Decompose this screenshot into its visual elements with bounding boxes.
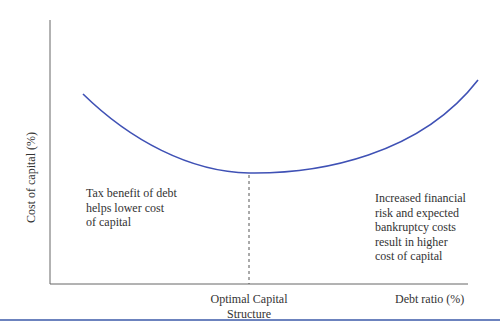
right-annotation: Increased financial risk and expected ba…: [375, 191, 466, 264]
cost-of-capital-curve: [83, 80, 478, 173]
left-note-line: of capital: [86, 215, 177, 230]
right-note-line: result in higher: [375, 235, 466, 250]
left-annotation: Tax benefit of debt helps lower cost of …: [86, 186, 177, 230]
right-note-line: cost of capital: [375, 249, 466, 264]
optimal-label-line: Optimal Capital: [189, 292, 309, 307]
chart-canvas: [0, 0, 500, 334]
right-note-line: Increased financial: [375, 191, 466, 206]
right-note-line: risk and expected: [375, 206, 466, 221]
x-axis-label: Debt ratio (%): [395, 292, 464, 307]
left-note-line: Tax benefit of debt: [86, 186, 177, 201]
y-axis-label: Cost of capital (%): [24, 123, 39, 233]
left-note-line: helps lower cost: [86, 201, 177, 216]
right-note-line: bankruptcy costs: [375, 220, 466, 235]
optimal-label-line: Structure: [189, 307, 309, 322]
optimal-capital-label: Optimal Capital Structure: [189, 292, 309, 321]
